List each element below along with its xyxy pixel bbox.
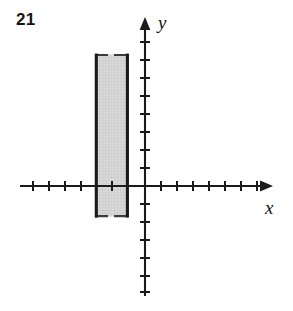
shaded-region-fill [96, 55, 129, 217]
x-axis [20, 181, 273, 192]
x-axis-label: x [265, 198, 273, 217]
x-axis-arrowhead [260, 181, 273, 192]
coordinate-plane-svg [0, 0, 293, 311]
shaded-region [95, 54, 129, 218]
y-axis-arrowhead [140, 17, 151, 30]
y-axis-label: y [158, 13, 166, 32]
y-axis [140, 17, 151, 296]
graph-figure: 21 [0, 0, 293, 311]
